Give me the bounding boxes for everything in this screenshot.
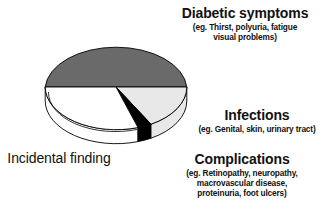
label-complications-detail-line1: (eg. Retinopathy, neuropathy, xyxy=(152,168,332,178)
label-complications-detail: (eg. Retinopathy, neuropathy, macrovascu… xyxy=(152,168,332,199)
label-infections: Infections (eg. Genital, skin, urinary t… xyxy=(182,108,332,134)
label-complications-title: Complications xyxy=(152,152,332,167)
label-infections-detail-line1: (eg. Genital, skin, urinary tract) xyxy=(182,124,332,134)
label-diabetic-symptoms-detail: (eg. Thirst, polyuria, fatigue visual pr… xyxy=(158,22,332,42)
pie-chart-figure: Diabetic symptoms (eg. Thirst, polyuria,… xyxy=(0,0,332,214)
label-diabetic-symptoms-detail-line1: (eg. Thirst, polyuria, fatigue xyxy=(158,22,332,32)
label-diabetic-symptoms-title: Diabetic symptoms xyxy=(158,6,332,21)
label-complications: Complications (eg. Retinopathy, neuropat… xyxy=(152,152,332,199)
label-infections-detail: (eg. Genital, skin, urinary tract) xyxy=(182,124,332,134)
label-complications-detail-line2: macrovascular disease, xyxy=(152,178,332,188)
label-diabetic-symptoms: Diabetic symptoms (eg. Thirst, polyuria,… xyxy=(158,6,332,42)
label-infections-title: Infections xyxy=(182,108,332,123)
slice-top-diabetic-symptoms xyxy=(45,47,187,87)
label-diabetic-symptoms-detail-line2: visual problems) xyxy=(158,32,332,42)
label-incidental-finding-title: Incidental finding xyxy=(6,150,112,166)
label-complications-detail-line3: proteinuria, foot ulcers) xyxy=(152,188,332,198)
label-incidental-finding: Incidental finding xyxy=(6,150,112,166)
